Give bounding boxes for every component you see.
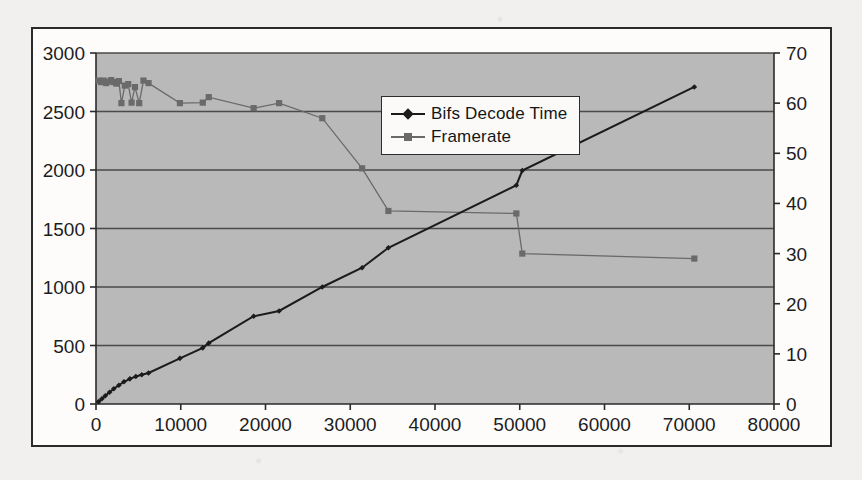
y-axis-left-ticks — [90, 53, 96, 404]
svg-text:40: 40 — [786, 193, 807, 214]
legend-key-diamond-icon — [391, 107, 425, 120]
legend-label-framerate: Framerate — [431, 127, 511, 147]
x-axis-ticks — [96, 404, 774, 410]
svg-text:10: 10 — [786, 344, 807, 365]
svg-text:0: 0 — [91, 414, 102, 435]
svg-text:40000: 40000 — [409, 414, 462, 435]
svg-text:0: 0 — [74, 394, 85, 415]
svg-text:30: 30 — [786, 244, 807, 265]
svg-text:10000: 10000 — [154, 414, 207, 435]
svg-text:500: 500 — [53, 336, 85, 357]
page-caption-smudge — [40, 455, 740, 469]
y-axis-right-labels: 010203040506070 — [786, 43, 807, 415]
svg-text:60000: 60000 — [578, 414, 631, 435]
svg-text:70: 70 — [786, 43, 807, 64]
svg-text:2500: 2500 — [43, 102, 85, 123]
chart-plot-area: 050010001500200025003000 010203040506070… — [33, 29, 830, 445]
svg-text:1000: 1000 — [43, 277, 85, 298]
svg-text:0: 0 — [786, 394, 797, 415]
legend-label-bifs-decode-time: Bifs Decode Time — [431, 104, 567, 124]
svg-text:20: 20 — [786, 294, 807, 315]
svg-text:80000: 80000 — [748, 414, 801, 435]
chart-figure-frame: 050010001500200025003000 010203040506070… — [31, 27, 832, 447]
svg-text:2000: 2000 — [43, 160, 85, 181]
svg-text:3000: 3000 — [43, 43, 85, 64]
svg-text:1500: 1500 — [43, 219, 85, 240]
legend-item-bifs-decode-time: Bifs Decode Time — [391, 102, 567, 125]
y-axis-right-ticks — [774, 53, 780, 404]
svg-text:50: 50 — [786, 143, 807, 164]
legend-key-square-icon — [391, 130, 425, 143]
chart-legend: Bifs Decode Time Framerate — [381, 96, 580, 155]
svg-text:30000: 30000 — [324, 414, 377, 435]
svg-text:20000: 20000 — [239, 414, 292, 435]
y-axis-left-labels: 050010001500200025003000 — [43, 43, 85, 415]
x-axis-labels: 0100002000030000400005000060000700008000… — [91, 414, 801, 435]
legend-item-framerate: Framerate — [391, 125, 567, 148]
svg-text:70000: 70000 — [663, 414, 716, 435]
svg-text:50000: 50000 — [493, 414, 546, 435]
svg-text:60: 60 — [786, 93, 807, 114]
